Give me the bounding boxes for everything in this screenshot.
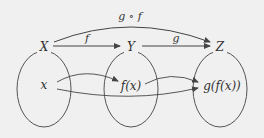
set-label-z: Z [216, 41, 224, 53]
arrow-x-to-fx [57, 74, 118, 82]
arrow-label-g: g [172, 33, 179, 44]
element-gfx: g(f(x)) [203, 80, 241, 92]
element-x: x [41, 79, 48, 91]
set-label-y: Y [127, 41, 135, 53]
arrow-label-g-compose-f: g ∘ f [118, 11, 142, 22]
composition-diagram: X Y Z f g g ∘ f x f(x) g(f(x)) [0, 0, 264, 138]
set-label-x: X [40, 41, 49, 53]
element-fx: f(x) [121, 80, 142, 92]
arrow-label-f: f [85, 33, 89, 44]
arrow-fx-to-gfx [145, 76, 198, 84]
